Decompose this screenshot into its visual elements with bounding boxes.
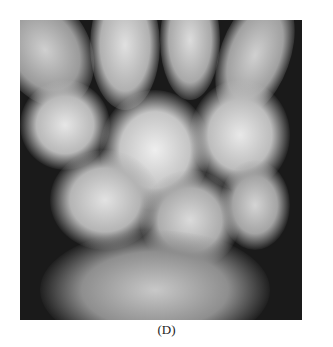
bone-shape (160, 20, 220, 100)
xray-image (20, 20, 302, 320)
bone-shape (40, 230, 270, 320)
figure-label: (D) (0, 322, 333, 338)
bone-shape (220, 160, 290, 250)
